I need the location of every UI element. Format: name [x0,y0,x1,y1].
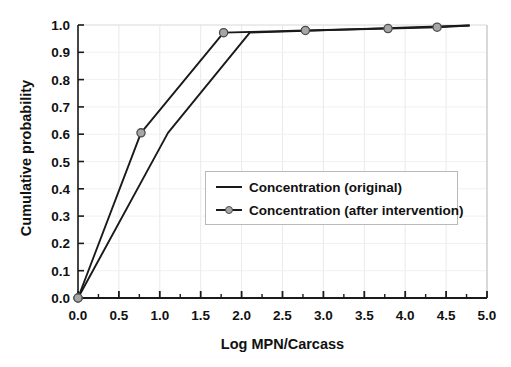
x-tick-label: 0.5 [97,308,141,323]
legend-line-swatch-icon [214,180,244,194]
x-tick-label: 1.5 [179,308,223,323]
legend-item-original: Concentration (original) [214,176,402,198]
data-point-marker [301,26,309,34]
y-tick-label: 0.1 [28,263,70,278]
data-point-marker [384,24,392,32]
y-tick-label: 0.5 [28,154,70,169]
data-point-marker [220,29,228,37]
x-tick-label: 3.0 [301,308,345,323]
legend-line-marker-swatch-icon [214,203,244,217]
y-tick-label: 0.0 [28,291,70,306]
data-point-marker [433,23,441,31]
chart-figure: Cumulative probability Log MPN/Carcass 0… [0,0,511,367]
legend-item-intervention: Concentration (after intervention) [214,199,464,221]
legend-label-original: Concentration (original) [249,180,402,195]
y-tick-label: 0.7 [28,99,70,114]
x-tick-label: 0.0 [56,308,100,323]
x-tick-label: 4.0 [383,308,427,323]
y-tick-label: 0.8 [28,72,70,87]
y-tick-label: 0.2 [28,236,70,251]
data-point-marker [137,129,145,137]
x-tick-label: 1.0 [138,308,182,323]
y-tick-label: 0.6 [28,127,70,142]
y-tick-label: 1.0 [28,18,70,33]
y-tick-label: 0.9 [28,45,70,60]
x-tick-label: 5.0 [465,308,509,323]
y-tick-label: 0.3 [28,209,70,224]
legend: Concentration (original) Concentration (… [205,171,458,225]
x-tick-label: 4.5 [424,308,468,323]
data-point-marker-origin [74,294,82,302]
x-tick-label: 2.5 [261,308,305,323]
x-tick-label: 2.0 [220,308,264,323]
y-tick-label: 0.4 [28,181,70,196]
legend-label-intervention: Concentration (after intervention) [249,203,464,218]
x-tick-label: 3.5 [342,308,386,323]
